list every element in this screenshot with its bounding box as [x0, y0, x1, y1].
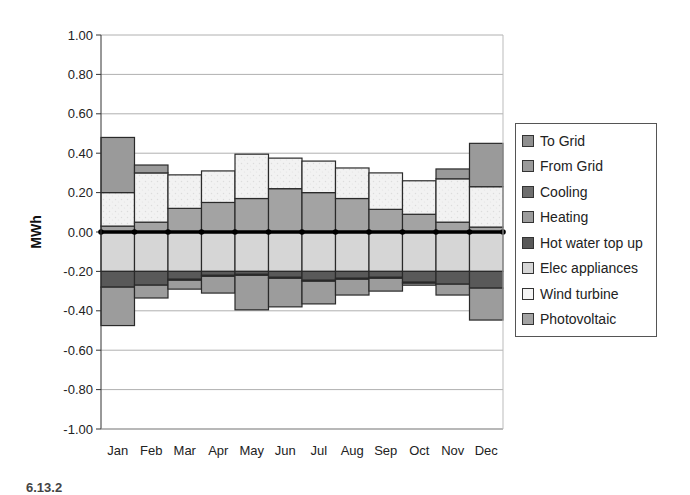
zero-line-marker [366, 229, 372, 235]
x-tick-label: Jun [275, 443, 296, 458]
y-tick-label: -0.20 [63, 264, 93, 279]
bar-hot-water-top-up [369, 271, 403, 277]
x-tick-label: Aug [341, 443, 364, 458]
bar-photovoltaic [269, 189, 303, 232]
legend-swatch [522, 186, 534, 198]
legend-swatch [522, 160, 534, 172]
zero-line-marker [232, 229, 238, 235]
legend-label: From Grid [540, 158, 603, 174]
legend-item-to-grid: To Grid [522, 128, 650, 154]
legend-item-elec-appliances: Elec appliances [522, 256, 650, 282]
bar-elec-appliances [101, 232, 135, 271]
legend-item-cooling: Cooling [522, 179, 650, 205]
bar-wind-turbine [135, 173, 169, 222]
bar-wind-turbine [302, 161, 336, 193]
bar-heating [470, 288, 504, 320]
bar-hot-water-top-up [403, 271, 437, 282]
legend-item-from-grid: From Grid [522, 154, 650, 180]
bar-hot-water-top-up [269, 271, 303, 277]
y-tick-label: 0.20 [68, 185, 93, 200]
zero-line-marker [467, 229, 473, 235]
bar-heating [269, 278, 303, 307]
legend-swatch [522, 288, 534, 300]
y-tick-label: 1.00 [68, 28, 93, 43]
bar-photovoltaic [403, 214, 437, 232]
x-tick-label: Nov [441, 443, 465, 458]
bar-photovoltaic [202, 202, 236, 232]
y-tick-label: -1.00 [63, 422, 93, 437]
legend-swatch [522, 313, 534, 325]
bar-photovoltaic [235, 199, 269, 232]
bar-hot-water-top-up [101, 271, 135, 287]
bar-wind-turbine [168, 175, 202, 208]
legend-label: Cooling [540, 184, 587, 200]
bar-elec-appliances [135, 232, 169, 271]
legend-item-heating: Heating [522, 205, 650, 231]
bar-elec-appliances [436, 232, 470, 271]
bar-wind-turbine [470, 187, 504, 227]
bar-hot-water-top-up [135, 271, 169, 285]
bar-elec-appliances [168, 232, 202, 271]
bar-elec-appliances [403, 232, 437, 271]
bar-wind-turbine [369, 173, 403, 209]
bar-hot-water-top-up [336, 271, 370, 278]
x-tick-label: Feb [140, 443, 162, 458]
bar-heating [168, 280, 202, 289]
bar-hot-water-top-up [168, 271, 202, 279]
bar-from-grid [101, 137, 135, 192]
bar-wind-turbine [269, 158, 303, 189]
legend-swatch [522, 135, 534, 147]
y-tick-label: 0.60 [68, 106, 93, 121]
zero-line-marker [299, 229, 305, 235]
zero-line-marker [132, 229, 138, 235]
bar-from-grid [436, 169, 470, 179]
bar-wind-turbine [336, 168, 370, 199]
zero-line-marker [266, 229, 272, 235]
bar-heating [135, 285, 169, 298]
legend-item-hot-water: Hot water top up [522, 230, 650, 256]
bar-hot-water-top-up [302, 271, 336, 280]
legend-label: Heating [540, 209, 588, 225]
bar-heating [302, 281, 336, 304]
legend-item-photovoltaic: Photovoltaic [522, 307, 650, 333]
bar-wind-turbine [436, 179, 470, 222]
y-tick-label: -0.40 [63, 303, 93, 318]
zero-line-marker [165, 229, 171, 235]
legend-swatch [522, 262, 534, 274]
y-axis-title: MWh [28, 215, 44, 248]
y-tick-label: -0.60 [63, 343, 93, 358]
bar-photovoltaic [168, 208, 202, 232]
bar-heating [436, 284, 470, 295]
bar-wind-turbine [101, 193, 135, 226]
bar-elec-appliances [269, 232, 303, 271]
legend-label: Photovoltaic [540, 311, 616, 327]
bar-elec-appliances [235, 232, 269, 271]
x-tick-label: Dec [475, 443, 499, 458]
y-tick-label: 0.40 [68, 146, 93, 161]
bar-wind-turbine [202, 171, 236, 203]
x-tick-label: May [239, 443, 264, 458]
bar-elec-appliances [302, 232, 336, 271]
bar-hot-water-top-up [436, 271, 470, 284]
bar-photovoltaic [369, 209, 403, 232]
zero-line-marker [400, 229, 406, 235]
bar-heating [101, 287, 135, 325]
x-tick-label: Apr [208, 443, 229, 458]
bar-elec-appliances [470, 232, 504, 271]
bar-elec-appliances [202, 232, 236, 271]
x-tick-label: Jul [310, 443, 327, 458]
bar-heating [369, 278, 403, 291]
x-tick-label: Sep [374, 443, 397, 458]
zero-line-marker [333, 229, 339, 235]
legend-swatch [522, 211, 534, 223]
x-tick-label: Mar [174, 443, 197, 458]
bar-heating [235, 275, 269, 309]
legend-label: Elec appliances [540, 260, 638, 276]
bar-heating [403, 283, 437, 285]
y-tick-label: -0.80 [63, 382, 93, 397]
legend-item-wind-turbine: Wind turbine [522, 281, 650, 307]
bar-elec-appliances [369, 232, 403, 271]
bar-hot-water-top-up [470, 271, 504, 288]
chart-legend: To Grid From Grid Cooling Heating Hot wa… [515, 123, 657, 337]
legend-label: Wind turbine [540, 286, 619, 302]
